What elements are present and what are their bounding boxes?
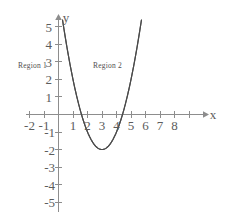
region-2-label: Region 2 [93,61,122,70]
x-tick-label: 4 [113,118,120,133]
parabola-region-graph: -2 -1 1 2 3 4 5 6 7 8 5 4 3 2 1 -1 -2 -3… [0,0,226,222]
plot-canvas: -2 -1 1 2 3 4 5 6 7 8 5 4 3 2 1 -1 -2 -3… [0,0,226,222]
x-tick-label: 3 [99,118,106,133]
y-tick-label: -5 [44,195,55,210]
x-tick-label: 5 [128,118,135,133]
x-tick-label: 2 [84,118,91,133]
x-tick-label: -2 [24,118,35,133]
x-axis-label: x [210,107,217,122]
y-tick-label: 5 [46,20,53,35]
y-tick-label: -2 [44,143,55,158]
x-tick-label: 6 [142,118,149,133]
region-1-label: Region 1 [18,61,47,70]
y-tick-label: -4 [44,178,55,193]
y-tick-label: -1 [44,125,55,140]
y-tick-label: 2 [46,72,53,87]
y-axis-label: y [63,10,70,25]
y-tick-label: 4 [46,37,53,52]
y-axis-arrow-icon [55,14,62,20]
x-tick-label: 8 [171,118,178,133]
y-tick-label: -3 [44,160,55,175]
y-tick-label: 1 [46,90,53,105]
x-tick-label: 1 [70,118,77,133]
x-axis-arrow-icon [203,111,209,118]
x-tick-label: 7 [157,118,164,133]
